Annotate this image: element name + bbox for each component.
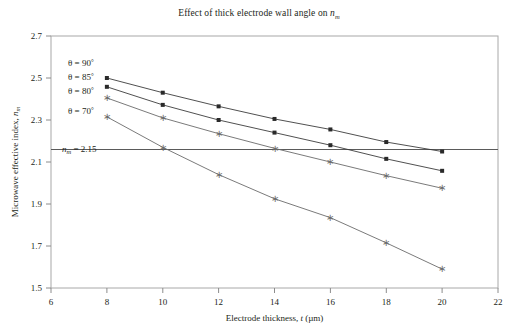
y-tick-label: 2.5 — [31, 73, 43, 83]
data-point-marker: ∗ — [159, 112, 167, 123]
data-point-marker — [273, 131, 277, 135]
data-point-marker: ∗ — [326, 212, 334, 223]
y-tick-label: 2.1 — [31, 157, 42, 167]
legend-item-85: θ = 85° — [68, 72, 94, 83]
data-point-marker — [273, 117, 277, 121]
x-tick-label: 8 — [105, 297, 110, 307]
data-point-marker — [217, 104, 221, 108]
data-point-marker: ∗ — [438, 263, 446, 274]
x-tick-label: 18 — [382, 297, 392, 307]
data-point-marker — [105, 85, 109, 89]
data-point-marker — [217, 118, 221, 122]
series-70: ∗∗∗∗∗∗∗ — [103, 111, 446, 274]
x-tick-label: 6 — [49, 297, 54, 307]
data-point-marker — [440, 169, 444, 173]
data-point-marker: ∗ — [382, 170, 390, 181]
y-axis-tick-labels: 2.7 2.5 2.3 2.1 1.9 1.7 1.5 — [31, 31, 43, 293]
data-point-marker: ∗ — [215, 169, 223, 180]
legend-item-80: θ = 80° — [68, 86, 94, 97]
series-line — [107, 78, 442, 152]
data-point-marker — [384, 157, 388, 161]
data-point-marker: ∗ — [215, 128, 223, 139]
data-point-marker: ∗ — [382, 237, 390, 248]
x-tick-label: 16 — [326, 297, 336, 307]
data-point-marker — [328, 143, 332, 147]
chart-figure: Effect of thick electrode wall angle on … — [0, 0, 518, 333]
reference-line-label: nm = 2.15 — [62, 144, 97, 155]
y-tick-label: 2.7 — [31, 31, 43, 41]
data-point-marker — [161, 103, 165, 107]
data-point-marker: ∗ — [159, 142, 167, 153]
legend: θ = 90° θ = 85° θ = 80° θ = 70° — [68, 58, 94, 117]
data-point-marker — [161, 91, 165, 95]
x-tick-label: 14 — [270, 297, 280, 307]
x-tick-label: 12 — [214, 297, 223, 307]
data-point-marker — [105, 76, 109, 80]
y-axis-ticks — [46, 36, 51, 288]
x-axis-ticks — [51, 288, 498, 293]
legend-item-90: θ = 90° — [68, 58, 94, 69]
series-line — [107, 87, 442, 171]
data-point-marker — [384, 140, 388, 144]
data-point-marker — [328, 127, 332, 131]
x-axis-title: Electrode thickness, t (µm) — [226, 313, 324, 323]
y-tick-label: 1.7 — [31, 241, 43, 251]
plot-area: 2.7 2.5 2.3 2.1 1.9 1.7 1.5 6 8 10 12 14 — [0, 0, 518, 333]
y-axis-title: Microwave effective index, nm — [10, 106, 21, 217]
data-point-marker: ∗ — [326, 156, 334, 167]
data-point-marker — [440, 150, 444, 154]
plot-frame — [51, 36, 498, 288]
series-85 — [105, 85, 444, 173]
y-tick-label: 2.3 — [31, 115, 43, 125]
legend-item-70: θ = 70° — [68, 106, 94, 117]
data-point-marker: ∗ — [103, 111, 111, 122]
y-tick-label: 1.9 — [31, 199, 43, 209]
data-point-marker: ∗ — [271, 143, 279, 154]
data-point-marker: ∗ — [438, 182, 446, 193]
y-tick-label: 1.5 — [31, 283, 43, 293]
data-point-marker: ∗ — [103, 92, 111, 103]
x-tick-label: 10 — [158, 297, 168, 307]
x-axis-tick-labels: 6 8 10 12 14 16 18 20 22 — [49, 297, 503, 307]
series-layer: ∗∗∗∗∗∗∗∗∗∗∗∗∗∗ — [103, 76, 446, 274]
data-point-marker: ∗ — [271, 193, 279, 204]
x-tick-label: 20 — [438, 297, 448, 307]
x-tick-label: 22 — [494, 297, 503, 307]
